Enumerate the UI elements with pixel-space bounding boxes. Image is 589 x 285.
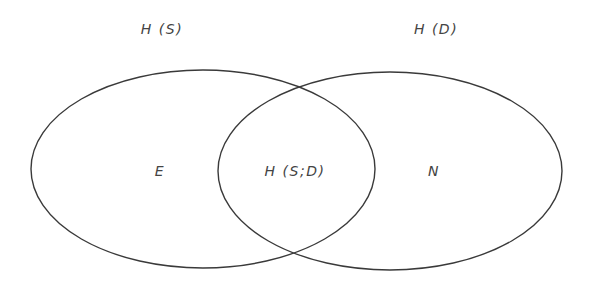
label-mutual-information-region: H (S;D) [265,164,326,178]
venn-diagram-svg [0,0,589,285]
label-destination-entropy: H (D) [414,22,458,36]
label-equivocation-region: E [155,164,165,178]
label-source-entropy: H (S) [141,22,183,36]
label-noise-region: N [428,164,440,178]
venn-diagram: H (S) H (D) E H (S;D) N [0,0,589,285]
